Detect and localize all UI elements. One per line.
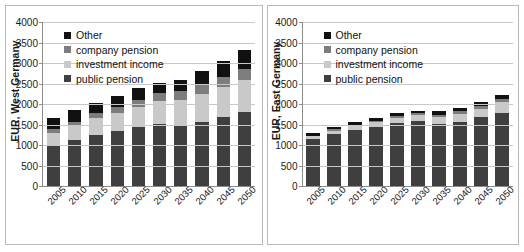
gridline	[303, 145, 513, 146]
x-axis-ticks-west: 2005201020152020202520302035204020452050	[42, 188, 254, 232]
y-tick-mark	[39, 186, 43, 187]
bar-segment-public	[369, 127, 382, 186]
legend-label: investment income	[336, 58, 424, 71]
bar-segment-public	[238, 112, 251, 186]
legend-label: public pension	[76, 73, 143, 86]
bar-segment-invest	[453, 114, 466, 122]
bar-segment-other	[68, 110, 81, 122]
legend-label: Other	[76, 29, 102, 42]
legend-item-public-pension: public pension	[64, 73, 164, 86]
legend-swatch-icon	[324, 61, 331, 68]
y-tick-mark	[299, 63, 303, 64]
stacked-bar	[369, 118, 382, 186]
x-tick-slot: 2020	[106, 188, 127, 232]
x-axis-ticks-east: 2005201020152020202520302035204020452050	[302, 188, 512, 232]
bar-segment-public	[153, 124, 166, 186]
bar-segment-public	[432, 124, 445, 186]
y-tick-mark	[299, 186, 303, 187]
stacked-bar	[327, 127, 340, 186]
y-axis-ticks-west: 05001000150020002500300035004000	[6, 6, 38, 244]
bar-segment-invest	[68, 126, 81, 140]
legend-label: investment income	[76, 58, 164, 71]
legend-label: Other	[336, 29, 362, 42]
gridline	[43, 104, 255, 105]
legend-swatch-icon	[64, 46, 71, 53]
gridline	[303, 125, 513, 126]
legend-label: public pension	[336, 73, 403, 86]
legend-item-other: Other	[64, 29, 164, 42]
x-tick-slot: 2040	[449, 188, 470, 232]
x-tick-slot: 2045	[212, 188, 233, 232]
legend-swatch-icon	[64, 61, 71, 68]
y-tick-label: 2000	[16, 99, 38, 110]
bar-segment-public	[327, 134, 340, 186]
bar-segment-invest	[217, 87, 230, 117]
y-tick-label: 3500	[275, 37, 297, 48]
stacked-bar	[432, 111, 445, 186]
x-tick-label: 2050	[236, 184, 259, 207]
bar-segment-other	[111, 96, 124, 107]
y-tick-label: 0	[32, 181, 38, 192]
x-tick-slot: 2010	[63, 188, 84, 232]
bar-segment-other	[132, 88, 145, 99]
plot-area-east: EUR, East Germany 0500100015002000250030…	[268, 6, 519, 244]
legend-label: company pension	[76, 44, 158, 57]
stacked-bar-figure: EUR, West Germany 0500100015002000250030…	[0, 0, 524, 252]
legend-item-investment-income: investment income	[324, 58, 424, 71]
y-tick-label: 1000	[16, 140, 38, 151]
y-tick-label: 3000	[275, 58, 297, 69]
bar-segment-other	[195, 71, 208, 84]
gridline	[303, 104, 513, 105]
x-tick-slot: 2025	[127, 188, 148, 232]
bar-segment-public	[111, 131, 124, 186]
bar-segment-public	[390, 123, 403, 186]
y-tick-mark	[299, 125, 303, 126]
stacked-bar	[47, 118, 60, 186]
y-tick-label: 3000	[16, 58, 38, 69]
y-tick-label: 2000	[275, 99, 297, 110]
x-tick-slot: 2020	[365, 188, 386, 232]
bar-segment-company	[238, 69, 251, 80]
x-tick-slot: 2005	[42, 188, 63, 232]
stacked-bar	[348, 122, 361, 186]
y-tick-mark	[39, 104, 43, 105]
bar-segment-invest	[474, 109, 487, 118]
y-tick-label: 4000	[16, 17, 38, 28]
bar-segment-company	[174, 91, 187, 100]
bar-segment-public	[217, 117, 230, 186]
bar-segment-company	[153, 93, 166, 101]
y-tick-mark	[299, 43, 303, 44]
x-tick-slot: 2010	[323, 188, 344, 232]
y-tick-label: 500	[281, 160, 298, 171]
gridline	[303, 166, 513, 167]
bar-segment-public	[68, 140, 81, 186]
y-tick-label: 2500	[275, 78, 297, 89]
y-tick-mark	[299, 84, 303, 85]
y-tick-mark	[39, 63, 43, 64]
gridline	[43, 145, 255, 146]
bar-segment-public	[474, 117, 487, 186]
y-tick-mark	[299, 22, 303, 23]
legend-swatch-icon	[324, 32, 331, 39]
legend-east: Othercompany pensioninvestment incomepub…	[324, 29, 424, 87]
y-tick-label: 4000	[275, 17, 297, 28]
stacked-bar	[411, 111, 424, 186]
y-tick-mark	[39, 84, 43, 85]
bar-segment-company	[217, 77, 230, 87]
x-tick-slot: 2035	[169, 188, 190, 232]
bar-segment-public	[411, 121, 424, 186]
gridline	[303, 22, 513, 23]
chart-panel-west-germany: EUR, West Germany 0500100015002000250030…	[5, 5, 263, 245]
stacked-bar	[68, 110, 81, 186]
x-tick-slot: 2030	[148, 188, 169, 232]
stacked-bar	[306, 133, 319, 186]
legend-item-investment-income: investment income	[64, 58, 164, 71]
bar-segment-other	[238, 50, 251, 68]
bar-segment-public	[348, 130, 361, 186]
x-tick-slot: 2015	[84, 188, 105, 232]
x-tick-slot: 2040	[190, 188, 211, 232]
gridline	[43, 125, 255, 126]
bar-segment-invest	[432, 117, 445, 124]
y-tick-mark	[39, 125, 43, 126]
y-tick-mark	[39, 145, 43, 146]
